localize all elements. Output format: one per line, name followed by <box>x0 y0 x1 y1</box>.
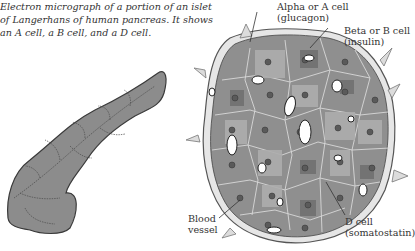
pancreas-illustration <box>8 72 166 234</box>
label-blood-vessel: Blood vessel <box>188 213 218 235</box>
islet-illustration <box>186 24 408 243</box>
label-d-cell: D cell (somatostatin) <box>345 216 415 238</box>
label-beta-cell: Beta or B cell (insulin) <box>344 25 410 47</box>
label-alpha-cell: Alpha or A cell (glucagon) <box>277 1 349 23</box>
